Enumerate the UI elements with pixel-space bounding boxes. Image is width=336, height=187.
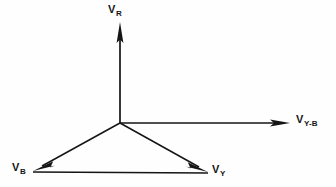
vector-v-b-arrowhead xyxy=(33,161,55,171)
vector-v-b-shaft xyxy=(42,123,120,166)
vector-v-y-shaft xyxy=(120,123,199,167)
label-v-y-symbol: V xyxy=(212,163,220,175)
vector-v-y xyxy=(120,123,208,172)
label-v-y-subscript: Y xyxy=(220,169,225,178)
label-v-b-subscript: B xyxy=(20,167,26,176)
label-v-y: VY xyxy=(212,164,225,175)
label-v-r: VR xyxy=(108,4,121,15)
label-v-b-symbol: V xyxy=(12,161,20,173)
label-v-y-b: VY-B xyxy=(296,114,317,125)
vector-v-y-b xyxy=(120,120,290,127)
vector-v-b xyxy=(33,123,120,171)
label-v-y-b-symbol: V xyxy=(296,113,304,125)
phasor-diagram-figure: VR VY-B VB VY xyxy=(0,0,336,187)
label-v-r-symbol: V xyxy=(108,3,116,15)
label-v-y-b-subscript: Y-B xyxy=(304,119,318,128)
label-v-r-subscript: R xyxy=(116,9,122,18)
vector-v-r xyxy=(117,22,124,123)
label-v-b: VB xyxy=(12,162,25,173)
baseline-connector xyxy=(33,172,208,173)
vector-v-y-arrowhead xyxy=(186,162,208,172)
phasor-vector-canvas xyxy=(0,0,336,187)
